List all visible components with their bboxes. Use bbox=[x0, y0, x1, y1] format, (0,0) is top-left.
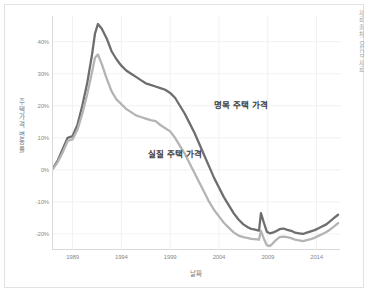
x-tick-label: 1999 bbox=[164, 254, 177, 260]
y-tick-label: 40% bbox=[38, 39, 49, 45]
y-tick-label: 10% bbox=[38, 135, 49, 141]
chart-figure: 자료 출처: OECD 자료 주택가격 변동률 날짜 40%30%20%10%0… bbox=[0, 0, 369, 297]
x-tick-label: 1989 bbox=[66, 254, 79, 260]
plot-area: 40%30%20%10%0%-10%-20% 19891994199920042… bbox=[52, 16, 340, 250]
y-tick-label: 30% bbox=[38, 71, 49, 77]
x-tick-label: 2004 bbox=[213, 254, 226, 260]
y-tick-label: -20% bbox=[36, 231, 49, 237]
y-tick-label: 0% bbox=[41, 167, 49, 173]
y-tick-label: -10% bbox=[36, 199, 49, 205]
series-label-nominal: 명목 주택 가격 bbox=[214, 98, 268, 110]
x-tick-label: 1994 bbox=[115, 254, 128, 260]
series-lines bbox=[53, 16, 341, 250]
source-note: 자료 출처: OECD 자료 bbox=[358, 10, 366, 72]
series-label-real: 실질 주택 가격 bbox=[148, 147, 202, 159]
x-axis-title: 날짜 bbox=[52, 268, 340, 278]
x-tick-label: 2009 bbox=[261, 254, 274, 260]
y-tick-label: 20% bbox=[38, 103, 49, 109]
x-tick-label: 2014 bbox=[310, 254, 323, 260]
y-axis-title: 주택가격 변동률 bbox=[14, 98, 26, 154]
